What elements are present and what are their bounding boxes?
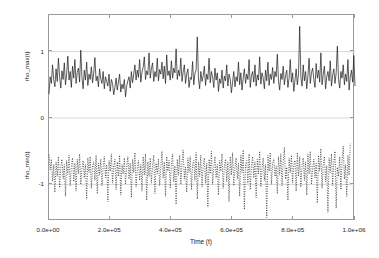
x-tick-label: 8.0e+05 [281, 226, 304, 233]
y-tick-mark [48, 183, 52, 184]
series-layer [49, 15, 355, 221]
series-line-1 [49, 26, 355, 96]
y-tick-mark [48, 117, 52, 118]
y-tick-mark-right [350, 117, 354, 118]
x-axis-label: Time (t) [190, 238, 212, 245]
x-tick-label: 1.0e+06 [343, 226, 366, 233]
series-line-2 [49, 143, 350, 217]
x-tick-mark [48, 216, 49, 220]
y-tick-mark-right [350, 183, 354, 184]
x-tick-label: 0.0e+00 [37, 226, 60, 233]
x-tick-mark [354, 216, 355, 220]
x-tick-mark [170, 216, 171, 220]
x-tick-mark [292, 216, 293, 220]
x-tick-mark [231, 216, 232, 220]
x-tick-mark-top [292, 14, 293, 18]
x-tick-label: 6.0e+05 [220, 226, 243, 233]
y-axis-label-bottom: rho_min(t) [23, 136, 30, 196]
y-tick-label-top: 0 [26, 114, 44, 121]
x-tick-mark-top [354, 14, 355, 18]
chart-figure: 0.0e+002.0e+054.0e+056.0e+058.0e+051.0e+… [0, 0, 379, 258]
x-tick-mark-top [170, 14, 171, 18]
y-tick-mark [48, 50, 52, 51]
x-tick-label: 4.0e+05 [159, 226, 182, 233]
plot-frame [48, 14, 354, 220]
x-tick-mark-top [231, 14, 232, 18]
y-axis-label-top: rho_max(t) [23, 37, 30, 97]
x-tick-mark-top [48, 14, 49, 18]
x-tick-mark [109, 216, 110, 220]
y-tick-mark-right [350, 50, 354, 51]
x-tick-label: 2.0e+05 [98, 226, 121, 233]
x-tick-mark-top [109, 14, 110, 18]
